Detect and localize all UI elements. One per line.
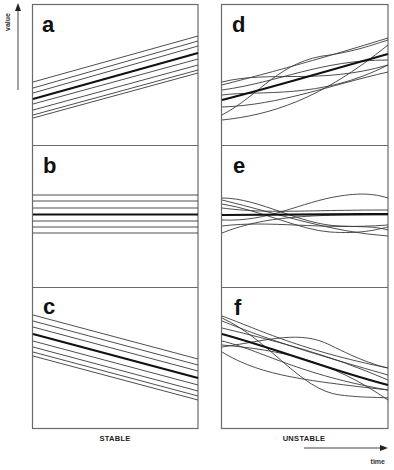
panel-letter-e: e [233,153,245,178]
panel-letter-d: d [232,12,245,37]
panel-f: f [222,295,388,400]
panel-f-lines [222,316,388,400]
panel-b: b [33,153,198,233]
panel-c: c [33,294,198,400]
value-axis-label: value [4,13,11,31]
mean-line [222,214,388,215]
mean-line [33,334,198,378]
panel-e-lines [222,194,388,236]
unstable-label: UNSTABLE [283,434,326,443]
panel-b-lines [33,195,198,233]
value-axis: value [4,3,21,90]
time-axis-label: time [371,458,386,465]
panel-a: a [33,12,198,118]
panel-d-lines [222,38,388,120]
stable-frame [33,5,199,429]
stable-column [33,5,199,429]
time-axis: time [304,445,388,465]
up-arrow-icon [15,3,21,11]
panel-e: e [222,153,388,236]
panel-letter-b: b [43,153,56,178]
panel-letter-a: a [42,12,55,37]
right-arrow-icon [380,445,388,451]
panel-a-lines [33,36,198,118]
stability-diagram: value a b [0,0,394,470]
panel-letter-f: f [234,295,242,320]
panel-letter-c: c [43,294,55,319]
stable-label: STABLE [99,434,130,443]
panel-c-lines [33,315,198,400]
panel-d: d [222,12,388,120]
